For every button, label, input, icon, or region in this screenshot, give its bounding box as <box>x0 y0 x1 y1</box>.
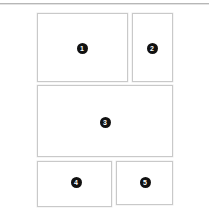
region-4-badge: 4 <box>71 177 82 188</box>
region-5-badge: 5 <box>140 177 151 188</box>
wireframe-canvas: 12345 <box>0 0 209 220</box>
region-2-badge: 2 <box>147 43 158 54</box>
region-1-badge: 1 <box>77 43 88 54</box>
region-3-badge: 3 <box>100 117 111 128</box>
top-divider-shadow <box>0 4 209 5</box>
